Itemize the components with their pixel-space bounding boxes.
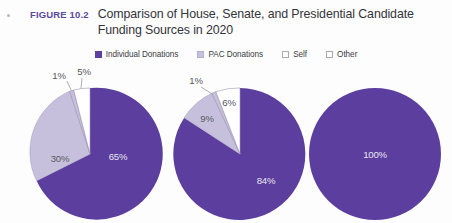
pie-chart-group: 65% 30% 1% 5% 84% 9% xyxy=(0,66,452,223)
leader-line-other xyxy=(81,78,82,89)
pie-value-individual-donations: 84% xyxy=(257,175,276,186)
legend-label-other: Other xyxy=(337,50,357,59)
legend-swatch-self-icon xyxy=(282,51,289,58)
leader-line-self xyxy=(201,87,213,94)
pie-value-other: 5% xyxy=(77,66,91,77)
chart-legend: Individual Donations PAC Donations Self … xyxy=(0,50,452,59)
legend-swatch-other-icon xyxy=(326,51,333,58)
figure-label: FIGURE 10.2 xyxy=(30,7,98,23)
legend-item-pac-donations: PAC Donations xyxy=(197,50,263,59)
legend-swatch-pac-donations-icon xyxy=(197,51,204,58)
pie-value-other: 6% xyxy=(222,97,236,108)
figure-container: FIGURE 10.2 Comparison of House, Senate,… xyxy=(0,0,452,223)
legend-item-individual-donations: Individual Donations xyxy=(95,50,179,59)
legend-item-other: Other xyxy=(326,50,357,59)
legend-label-individual-donations: Individual Donations xyxy=(106,50,179,59)
pie-chart-house: 65% 30% 1% 5% xyxy=(14,66,174,223)
pie-value-self: 1% xyxy=(52,70,66,81)
pie-chart-presidential: 100% xyxy=(307,66,452,223)
figure-header: FIGURE 10.2 Comparison of House, Senate,… xyxy=(30,7,444,38)
pie-value-pac-donations: 30% xyxy=(51,153,70,164)
legend-label-self: Self xyxy=(293,50,307,59)
legend-swatch-individual-donations-icon xyxy=(95,51,102,58)
pie-value-individual-donations: 100% xyxy=(363,149,387,160)
leader-line-self xyxy=(67,81,71,91)
pie-value-pac-donations: 9% xyxy=(200,113,214,124)
pie-value-self: 1% xyxy=(189,75,203,86)
pie-value-individual-donations: 65% xyxy=(109,151,128,162)
margin-dot-icon xyxy=(7,14,10,17)
figure-title: Comparison of House, Senate, and Preside… xyxy=(98,7,444,38)
pie-chart-senate: 84% 9% 1% 6% xyxy=(167,66,327,223)
legend-label-pac-donations: PAC Donations xyxy=(208,50,263,59)
legend-item-self: Self xyxy=(282,50,307,59)
